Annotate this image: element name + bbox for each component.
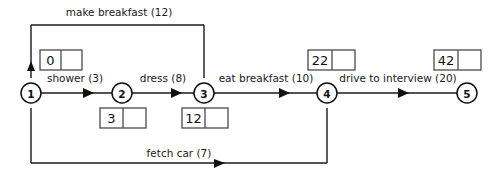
node-5[interactable]: 5 [457, 83, 477, 103]
node-1[interactable]: 1 [21, 83, 41, 103]
time-box-node-5: 42 [434, 50, 481, 70]
time-box-node-4-value: 22 [312, 53, 329, 68]
edge-label-eat-breakfast: eat breakfast (10) [219, 72, 314, 84]
edge-label-shower: shower (3) [47, 72, 103, 84]
edge-dress-arrowhead [171, 88, 182, 98]
edge-shower-arrowhead [83, 88, 94, 98]
edge-fetch-car: fetch car (7) [31, 108, 327, 168]
node-3-label: 3 [200, 88, 207, 100]
node-1-label: 1 [27, 88, 34, 100]
edge-drive-to-interview: drive to interview (20) [337, 72, 457, 98]
node-4[interactable]: 4 [317, 83, 337, 103]
time-box-node-2-value: 3 [107, 111, 115, 126]
time-box-node-4: 22 [308, 50, 355, 70]
time-box-node-2: 3 [100, 108, 146, 128]
node-5-label: 5 [463, 88, 470, 100]
node-4-label: 4 [323, 88, 330, 100]
time-box-node-3-value: 12 [185, 111, 202, 126]
edge-fetch-car-arrowhead [214, 159, 225, 168]
time-box-node-1: 0 [40, 50, 82, 70]
node-2[interactable]: 2 [112, 83, 132, 103]
edge-label-fetch-car: fetch car (7) [147, 147, 212, 159]
edge-shower: shower (3) [41, 72, 112, 98]
activity-network-diagram: make breakfast (12) fetch car (7) shower… [0, 0, 500, 172]
time-box-node-5-value: 42 [438, 53, 455, 68]
edge-dress: dress (8) [132, 72, 194, 98]
edge-eat-breakfast-arrowhead [279, 88, 290, 98]
time-box-node-1-value: 0 [46, 53, 54, 68]
time-box-node-3: 12 [182, 108, 228, 128]
edge-label-make-breakfast: make breakfast (12) [66, 6, 173, 18]
edge-label-dress: dress (8) [140, 72, 186, 84]
edge-eat-breakfast: eat breakfast (10) [214, 72, 317, 98]
node-3[interactable]: 3 [194, 83, 214, 103]
edge-make-breakfast-arrowhead [27, 61, 35, 71]
edge-label-drive-to-interview: drive to interview (20) [339, 72, 456, 84]
node-2-label: 2 [118, 88, 125, 100]
edge-drive-to-interview-arrowhead [398, 88, 409, 98]
